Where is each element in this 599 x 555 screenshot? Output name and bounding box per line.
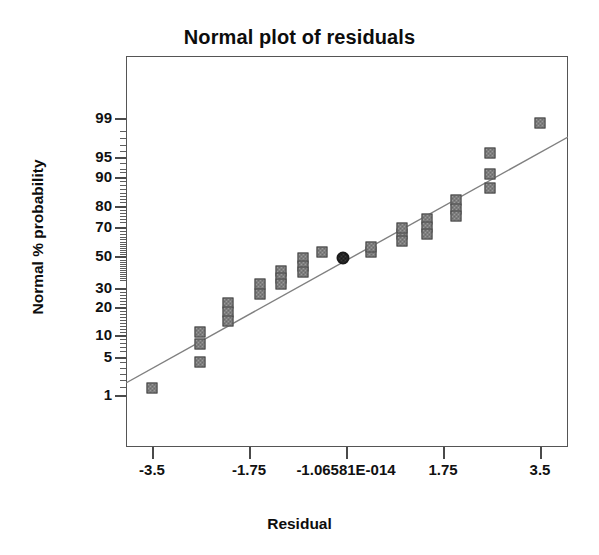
data-point (397, 236, 408, 247)
x-tick-mark (443, 447, 445, 459)
y-minor-tick (120, 304, 126, 305)
y-minor-tick (120, 368, 126, 369)
x-tick-mark (152, 447, 154, 459)
data-point (255, 289, 266, 300)
y-minor-tick (120, 172, 126, 173)
y-minor-tick (120, 145, 126, 146)
data-point (276, 279, 287, 290)
y-tick-label: 5 (68, 349, 112, 364)
y-minor-tick (120, 189, 126, 190)
y-minor-tick (120, 260, 126, 261)
x-tick-label: -1.75 (232, 461, 266, 478)
data-point (397, 223, 408, 234)
y-minor-tick (120, 250, 126, 251)
y-tick-mark (115, 307, 126, 309)
data-point-highlighted (337, 252, 350, 265)
y-minor-tick (120, 268, 126, 269)
y-minor-tick (120, 213, 126, 214)
data-point (223, 316, 234, 327)
x-tick-mark (540, 447, 542, 459)
y-tick-mark (115, 157, 126, 159)
y-tick-label: 95 (68, 149, 112, 164)
y-minor-tick (120, 234, 126, 235)
y-minor-tick (120, 210, 126, 211)
data-point (535, 118, 546, 129)
y-minor-tick (120, 317, 126, 318)
y-tick-label: 10 (68, 327, 112, 342)
y-tick-label: 80 (68, 198, 112, 213)
y-minor-tick (120, 199, 126, 200)
y-minor-tick (120, 239, 126, 240)
data-point (485, 183, 496, 194)
y-minor-tick (120, 301, 126, 302)
y-minor-tick (120, 329, 126, 330)
y-minor-tick (120, 295, 126, 296)
y-tick-label: 99 (68, 110, 112, 125)
y-minor-tick (120, 314, 126, 315)
y-minor-tick (120, 163, 126, 164)
data-point (317, 247, 328, 258)
y-tick-label: 1 (68, 387, 112, 402)
y-minor-tick (120, 181, 126, 182)
page-title: Normal plot of residuals (0, 26, 599, 49)
y-minor-tick (120, 246, 126, 247)
y-minor-tick (120, 326, 126, 327)
y-minor-tick (120, 131, 126, 132)
y-minor-tick (120, 193, 126, 194)
data-point (485, 169, 496, 180)
y-minor-tick (120, 219, 126, 220)
y-tick-mark (115, 288, 126, 290)
y-tick-mark (115, 357, 126, 359)
y-tick-label: 30 (68, 280, 112, 295)
y-minor-tick (120, 244, 126, 245)
data-point (147, 383, 158, 394)
y-minor-tick (120, 387, 126, 388)
x-axis-label: Residual (0, 515, 599, 533)
data-point (298, 267, 309, 278)
y-minor-tick (120, 252, 126, 253)
x-tick-mark (249, 447, 251, 459)
y-tick-label: 90 (68, 169, 112, 184)
y-minor-tick (120, 216, 126, 217)
y-minor-tick (120, 280, 126, 281)
y-minor-tick (120, 262, 126, 263)
data-point (195, 339, 206, 350)
y-minor-tick (120, 242, 126, 243)
y-tick-mark (115, 227, 126, 229)
y-minor-tick (120, 292, 126, 293)
y-tick-mark (115, 206, 126, 208)
y-minor-tick (120, 237, 126, 238)
y-tick-mark (115, 256, 126, 258)
y-minor-tick (120, 151, 126, 152)
y-minor-tick (120, 343, 126, 344)
x-tick-label: -3.5 (139, 461, 165, 478)
y-minor-tick (120, 311, 126, 312)
y-minor-tick (120, 222, 126, 223)
data-point (195, 327, 206, 338)
plot-area (126, 56, 568, 447)
x-tick-label: 1.75 (428, 461, 457, 478)
y-minor-tick (120, 380, 126, 381)
y-minor-tick (120, 323, 126, 324)
y-minor-tick (120, 347, 126, 348)
x-tick-mark (346, 447, 348, 459)
y-minor-tick (120, 278, 126, 279)
y-minor-tick (120, 202, 126, 203)
x-tick-label: -1.06581E-014 (296, 461, 395, 478)
data-point (422, 229, 433, 240)
y-minor-tick (120, 362, 126, 363)
data-point (366, 242, 377, 253)
y-minor-tick (120, 272, 126, 273)
y-tick-mark (115, 335, 126, 337)
y-minor-tick (120, 266, 126, 267)
y-minor-tick (120, 332, 126, 333)
data-point (485, 148, 496, 159)
y-axis-label: Normal % probability (29, 137, 47, 337)
y-minor-tick (120, 270, 126, 271)
x-tick-label: 3.5 (530, 461, 551, 478)
data-point (451, 211, 462, 222)
chart-page: Normal plot of residuals Normal % probab… (0, 0, 599, 555)
y-minor-tick (120, 169, 126, 170)
y-minor-tick (120, 276, 126, 277)
y-minor-tick (120, 185, 126, 186)
